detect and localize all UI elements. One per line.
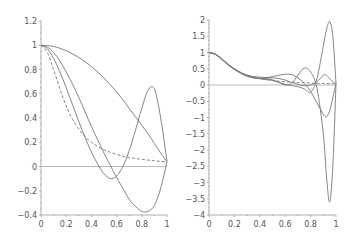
x-tick-label: 0.2	[60, 220, 73, 229]
y-tick-label: −3.5	[186, 195, 205, 204]
y-tick-label: −0.4	[18, 211, 37, 220]
y-tick-label: 1	[200, 49, 205, 58]
x-tick-label: 0.8	[135, 220, 148, 229]
y-tick-label: −2.5	[186, 162, 205, 171]
series-curve-2	[41, 45, 167, 178]
y-tick-label: 1.2	[24, 17, 37, 26]
x-tick-label: 1	[333, 220, 338, 229]
y-tick-label: −4	[193, 211, 205, 220]
series-curve-1	[41, 45, 167, 161]
x-tick-label: 0.8	[304, 220, 317, 229]
y-tick-label: 0	[200, 81, 205, 90]
right-plot-panel: −4−3.5−3−2.5−2−1.5−1−0.500.511.5200.20.4…	[186, 16, 339, 229]
y-tick-label: 0.2	[24, 138, 37, 147]
y-tick-label: 0.6	[24, 90, 37, 99]
series-curve-3	[209, 53, 336, 203]
y-tick-label: −1.5	[186, 130, 205, 139]
x-tick-label: 0.6	[279, 220, 292, 229]
x-tick-label: 1	[164, 220, 169, 229]
x-tick-label: 0.6	[110, 220, 123, 229]
y-tick-label: 0	[32, 163, 37, 172]
y-tick-label: 1.5	[192, 32, 205, 41]
chart-figure: −0.4−0.200.20.40.60.811.200.20.40.60.81 …	[0, 0, 357, 243]
y-tick-label: 0.4	[24, 114, 37, 123]
y-tick-label: 2	[200, 16, 205, 25]
x-tick-label: 0	[206, 220, 211, 229]
x-tick-label: 0.4	[253, 220, 266, 229]
y-tick-label: 0.8	[24, 66, 37, 75]
y-tick-label: −2	[193, 146, 205, 155]
y-tick-label: −1	[193, 114, 205, 123]
x-tick-label: 0.2	[228, 220, 241, 229]
y-tick-label: 0.5	[192, 65, 205, 74]
y-tick-label: −3	[193, 179, 205, 188]
y-tick-label: 1	[32, 41, 37, 50]
left-plot-panel: −0.4−0.200.20.40.60.811.200.20.40.60.81	[18, 17, 170, 229]
series-curve-3	[41, 45, 167, 212]
x-tick-label: 0.4	[85, 220, 98, 229]
y-tick-label: −0.5	[186, 97, 205, 106]
series-runge-function	[41, 45, 167, 162]
x-tick-label: 0	[38, 220, 43, 229]
y-tick-label: −0.2	[18, 187, 37, 196]
